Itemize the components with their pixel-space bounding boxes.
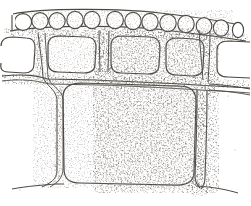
epidermal-cell: [232, 22, 243, 37]
engraving-figure: Cellular tissue cross-section, vintage e…: [0, 0, 251, 206]
sub-epidermal-cell: [166, 38, 204, 76]
parenchyma-cell-large: [63, 83, 196, 185]
epidermal-cell: [14, 14, 31, 31]
sub-epidermal-cell: [1, 37, 35, 73]
cross-section-illustration: [0, 0, 251, 206]
parenchyma-cell-row: [63, 83, 196, 185]
epidermal-cell: [160, 14, 176, 31]
sub-epidermal-cell: [48, 36, 96, 73]
sub-epidermal-cell: [111, 36, 160, 74]
epidermal-cell: [178, 15, 194, 32]
epidermal-cell: [107, 11, 124, 28]
sub-epidermal-cell: [217, 41, 250, 78]
